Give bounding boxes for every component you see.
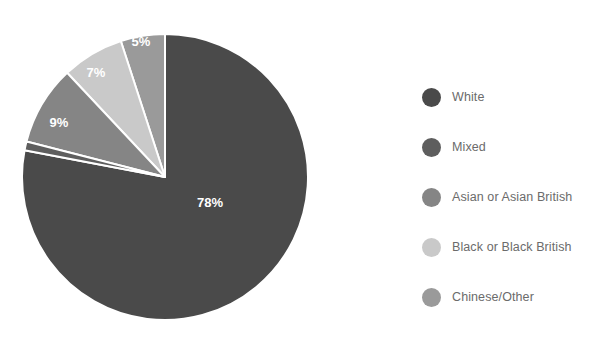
legend-swatch-icon (422, 288, 441, 307)
legend-item[interactable]: White (422, 72, 587, 122)
legend-item[interactable]: Mixed (422, 122, 587, 172)
legend-item[interactable]: Black or Black British (422, 222, 587, 272)
legend-swatch-icon (422, 188, 441, 207)
pie-chart-figure: 78%9%7%5% WhiteMixedAsian or Asian Briti… (0, 0, 590, 342)
legend-item-label: Mixed (452, 140, 486, 154)
pie-slice-label: 9% (50, 115, 69, 130)
chart-legend: WhiteMixedAsian or Asian BritishBlack or… (422, 72, 587, 322)
pie-slice-label: 7% (87, 65, 106, 80)
legend-item[interactable]: Chinese/Other (422, 272, 587, 322)
legend-swatch-icon (422, 238, 441, 257)
legend-item[interactable]: Asian or Asian British (422, 172, 587, 222)
legend-item-label: White (452, 90, 484, 104)
legend-item-label: Asian or Asian British (452, 190, 572, 204)
legend-swatch-icon (422, 88, 441, 107)
pie-slice-group (22, 34, 308, 320)
legend-item-label: Black or Black British (452, 240, 572, 254)
legend-item-label: Chinese/Other (452, 290, 534, 304)
pie-slice-label: 5% (132, 34, 151, 49)
legend-swatch-icon (422, 138, 441, 157)
pie-slice-label: 78% (197, 195, 223, 210)
